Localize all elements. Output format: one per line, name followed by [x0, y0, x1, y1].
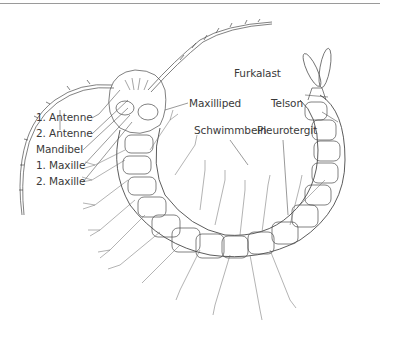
label-maxilliped: Maxilliped [189, 97, 241, 109]
swimming-legs [82, 110, 325, 320]
label-antenne-2: 2. Antenne [36, 127, 93, 139]
label-maxille-1: 1. Maxille [36, 159, 85, 171]
label-telson: Telson [271, 97, 303, 109]
label-furkalast: Furkalast [234, 67, 281, 79]
label-antenne-1: 1. Antenne [36, 111, 93, 123]
label-pleurotergit: Pleurotergit [257, 124, 317, 136]
label-mandibel: Mandibel [36, 143, 83, 155]
label-maxille-2: 2. Maxille [36, 175, 85, 187]
telson-furca [300, 47, 334, 100]
antenna-1-right [148, 19, 272, 92]
label-schwimmbein: Schwimmbein [194, 124, 267, 136]
